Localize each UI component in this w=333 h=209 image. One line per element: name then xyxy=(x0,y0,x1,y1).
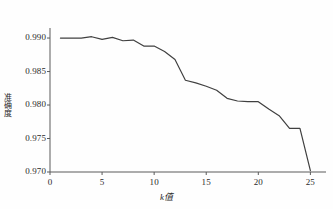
y-tick-label: 0.970 xyxy=(14,166,46,176)
axes-group xyxy=(47,28,326,175)
y-tick-label: 0.980 xyxy=(14,99,46,109)
y-tick-label: 0.975 xyxy=(14,133,46,143)
x-axis-title-text: k值 xyxy=(160,192,173,202)
accuracy-series-line xyxy=(60,37,310,171)
x-tick-label: 0 xyxy=(36,177,64,187)
y-tick-label: 0.985 xyxy=(14,66,46,76)
chart-figure: 准确度 k值 0.9700.9750.9800.9850.99005101520… xyxy=(0,0,333,209)
x-tick-label: 15 xyxy=(192,177,220,187)
x-tick-label: 20 xyxy=(244,177,272,187)
x-tick-label: 25 xyxy=(296,177,324,187)
x-tick-label: 10 xyxy=(140,177,168,187)
y-tick-label: 0.990 xyxy=(14,32,46,42)
y-axis-title: 准确度 xyxy=(2,93,10,117)
x-tick-label: 5 xyxy=(88,177,116,187)
x-axis-title: k值 xyxy=(0,190,333,203)
